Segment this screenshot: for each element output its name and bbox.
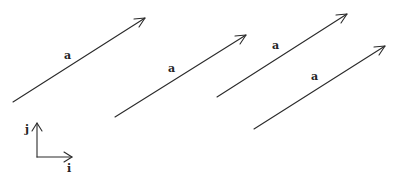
coordinate-axes: [32, 123, 72, 162]
j-axis-label: j: [25, 124, 29, 135]
vector-arrow-2: [115, 35, 246, 117]
vector-label-4: a: [311, 71, 318, 82]
i-axis-label: i: [67, 163, 71, 174]
vector-arrow-4: [254, 46, 385, 129]
vector-label-1: a: [64, 50, 71, 61]
diagram-canvas: [0, 0, 396, 180]
vector-label-2: a: [168, 63, 175, 74]
vector-arrow-1: [13, 18, 145, 102]
vector-diagram: a a a a j i: [0, 0, 396, 180]
vector-arrow-3: [217, 14, 347, 97]
vector-label-3: a: [272, 40, 279, 51]
